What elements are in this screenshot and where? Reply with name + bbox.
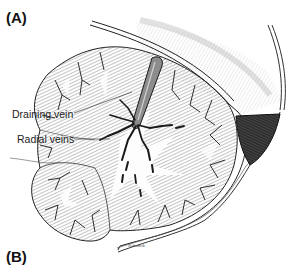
- artist-signature: Schanck: [128, 243, 145, 248]
- panel-label-a: (A): [6, 9, 27, 26]
- panel-label-b: (B): [6, 248, 27, 265]
- venous-sinus: [236, 114, 280, 165]
- draining-vein-label: Draining vein: [12, 108, 73, 120]
- radial-veins-label: Radial veins: [17, 133, 74, 145]
